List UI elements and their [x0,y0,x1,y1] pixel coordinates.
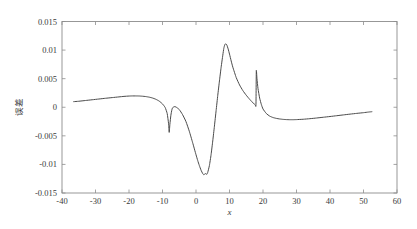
x-axis-tick-labels: -40-30-20-100102030405060 [56,196,401,206]
y-tick-label: 0.015 [38,17,57,27]
y-tick-label: 0 [53,102,57,112]
x-tick-label: 40 [326,196,335,206]
x-tick-label: 50 [359,196,368,206]
y-axis-title: 误差 [14,98,24,116]
plot-frame [62,22,397,194]
x-tick-label: -40 [56,196,67,206]
y-tick-label: -0.015 [35,188,57,198]
x-tick-label: -20 [123,196,134,206]
y-axis-ticks [62,22,397,194]
x-tick-label: 10 [225,196,234,206]
y-tick-label: -0.005 [35,131,57,141]
chart-figure: -40-30-20-100102030405060 0.0150.010.005… [0,0,417,229]
x-tick-label: 0 [194,196,198,206]
x-tick-label: -30 [90,196,101,206]
x-tick-label: 20 [259,196,268,206]
data-curve-error [74,44,372,175]
y-tick-label: 0.005 [38,74,57,84]
y-axis-tick-labels: 0.0150.010.0050-0.005-0.01-0.015 [35,17,57,199]
x-tick-label: 60 [393,196,402,206]
y-tick-label: 0.01 [42,45,57,55]
x-axis-title: x [227,207,232,217]
x-axis-ticks [62,22,397,194]
chart-canvas: -40-30-20-100102030405060 0.0150.010.005… [0,0,417,229]
x-tick-label: 30 [292,196,301,206]
data-series-group [74,44,372,175]
x-tick-label: -10 [157,196,168,206]
y-tick-label: -0.01 [39,159,57,169]
